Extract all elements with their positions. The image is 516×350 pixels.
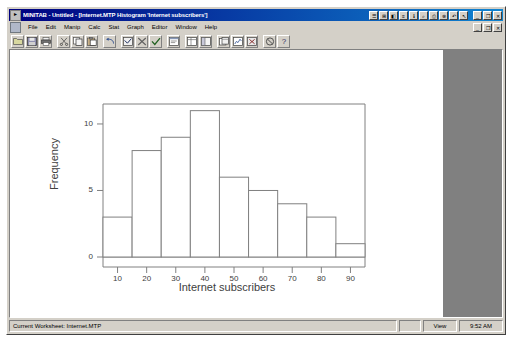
- graph-window[interactable]: Frequency Internet subscribers 0510 1020…: [10, 50, 444, 318]
- print-button[interactable]: [39, 35, 52, 48]
- cancel-button[interactable]: ⊗: [439, 11, 448, 20]
- undo-button[interactable]: [103, 35, 116, 48]
- x-tick-label: 90: [340, 274, 360, 283]
- svg-text:?: ?: [281, 37, 286, 46]
- y-tick-label: 0: [71, 252, 93, 261]
- minitab-application-window: ▸ MINITAB - Untitled - [Internet.MTP His…: [6, 6, 506, 335]
- menu-bar: File Edit Manip Calc Stat Graph Editor W…: [9, 22, 503, 33]
- y-tick-label: 5: [71, 185, 93, 194]
- project-manager-button[interactable]: [199, 35, 212, 48]
- cancel-button[interactable]: [135, 35, 148, 48]
- status-worksheet-text: Current Worksheet: Internet.MTP: [9, 320, 397, 332]
- find-button[interactable]: ⌕: [419, 11, 428, 20]
- status-time-text: 9:52 AM: [459, 320, 503, 332]
- check-button[interactable]: [149, 35, 162, 48]
- x-tick-label: 20: [137, 274, 157, 283]
- menu-item-file[interactable]: File: [24, 23, 42, 32]
- y-axis-title: Frequency: [48, 104, 60, 224]
- graph-window-button[interactable]: ◧: [389, 11, 398, 20]
- menu-item-calc[interactable]: Calc: [84, 23, 104, 32]
- open-worksheet-button[interactable]: [11, 35, 24, 48]
- print-button[interactable]: ⎙: [429, 11, 438, 20]
- x-tick-label: 70: [282, 274, 302, 283]
- paste-button[interactable]: [85, 35, 98, 48]
- child-restore-button[interactable]: ❐: [483, 23, 492, 32]
- main-toolbar: ?: [9, 34, 503, 49]
- x-tick-label: 10: [108, 274, 128, 283]
- restore-button[interactable]: ❐: [483, 11, 492, 20]
- menu-item-stat[interactable]: Stat: [104, 23, 123, 32]
- status-bar: Current Worksheet: Internet.MTP View 9:5…: [9, 320, 503, 332]
- menu-item-editor[interactable]: Editor: [148, 23, 172, 32]
- status-spacer-panel: [399, 320, 421, 332]
- mdi-client-area: Frequency Internet subscribers 0510 1020…: [9, 49, 503, 318]
- undo-button[interactable]: ↶: [449, 11, 458, 20]
- minitab-icon: ▸: [10, 10, 21, 21]
- current-data-window-button[interactable]: [185, 35, 198, 48]
- help-button[interactable]: ?: [277, 35, 290, 48]
- x-tick-label: 80: [311, 274, 331, 283]
- child-minimize-button[interactable]: _: [473, 23, 482, 32]
- x-tick-label: 40: [195, 274, 215, 283]
- info-window-button[interactable]: ℹ: [409, 11, 418, 20]
- session-window-button[interactable]: [167, 35, 180, 48]
- child-close-button[interactable]: ✕: [493, 23, 502, 32]
- edit-last-dialog-button[interactable]: [121, 35, 134, 48]
- menu-item-graph[interactable]: Graph: [123, 23, 148, 32]
- menu-item-help[interactable]: Help: [201, 23, 221, 32]
- history-window-button[interactable]: ≡: [399, 11, 408, 20]
- title-bar: ▸ MINITAB - Untitled - [Internet.MTP His…: [9, 9, 503, 21]
- show-graphs-button[interactable]: [231, 35, 244, 48]
- document-icon[interactable]: [10, 22, 21, 33]
- title-bar-button-group: ☰ ⊞ ◧ ≡ ℹ ⌕ ⎙ ⊗ ↶ ↖ _ ❐ ✕: [369, 11, 503, 20]
- x-tick-label: 50: [224, 274, 244, 283]
- copy-button[interactable]: [71, 35, 84, 48]
- save-project-button[interactable]: [25, 35, 38, 48]
- menu-item-window[interactable]: Window: [171, 23, 200, 32]
- worksheet-window-button[interactable]: ⊞: [379, 11, 388, 20]
- menu-item-manip[interactable]: Manip: [60, 23, 84, 32]
- show-worksheets-button[interactable]: [217, 35, 230, 48]
- x-tick-label: 60: [253, 274, 273, 283]
- mdi-child-controls: _ ❐ ✕: [473, 23, 503, 32]
- close-button[interactable]: ✕: [493, 11, 502, 20]
- close-graphs-button[interactable]: [245, 35, 258, 48]
- histogram-plot: Frequency Internet subscribers 0510 1020…: [10, 50, 443, 318]
- x-tick-label: 30: [166, 274, 186, 283]
- session-window-button[interactable]: ☰: [369, 11, 378, 20]
- status-mode-text: View: [423, 320, 457, 332]
- stop-button[interactable]: [263, 35, 276, 48]
- minimize-button[interactable]: _: [473, 11, 482, 20]
- menu-item-edit[interactable]: Edit: [42, 23, 60, 32]
- y-tick-label: 10: [71, 119, 93, 128]
- help-arrow-button[interactable]: ↖: [459, 11, 468, 20]
- cut-button[interactable]: [57, 35, 70, 48]
- window-title: MINITAB - Untitled - [Internet.MTP Histo…: [23, 11, 208, 19]
